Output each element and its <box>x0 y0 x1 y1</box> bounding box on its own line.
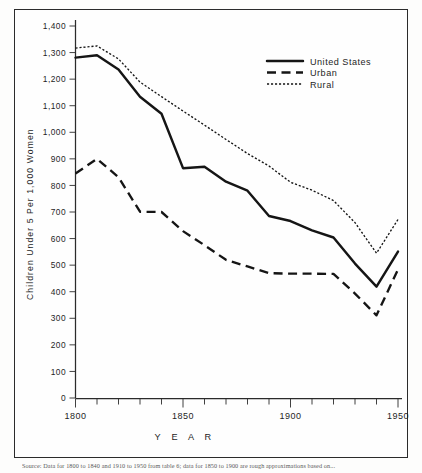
figure-caption: Source: Data for 1800 to 1840 and 1910 t… <box>22 462 414 469</box>
legend: United States Urban Rural <box>267 57 371 90</box>
legend-label-united-states: United States <box>310 57 371 67</box>
x-tick-label: 1950 <box>387 411 409 421</box>
x-axis-ticks <box>76 399 399 408</box>
legend-item-rural: Rural <box>267 80 334 90</box>
x-axis-title: Y E A R <box>155 432 216 442</box>
x-axis-tick-labels: 1800185019001950 <box>65 411 409 421</box>
x-tick-label: 1900 <box>280 411 302 421</box>
y-tick-label: 1,300 <box>43 48 66 58</box>
y-tick-label: 400 <box>51 287 66 297</box>
y-axis-tick-labels: 01002003004005006007008009001,0001,1001,… <box>43 21 66 403</box>
figure-plate: 01002003004005006007008009001,0001,1001,… <box>0 0 422 473</box>
y-tick-label: 300 <box>51 313 66 323</box>
x-tick-label: 1850 <box>172 411 194 421</box>
y-tick-label: 700 <box>51 207 66 217</box>
y-tick-label: 900 <box>51 154 66 164</box>
y-tick-label: 1,400 <box>43 21 66 31</box>
legend-item-urban: Urban <box>267 68 337 78</box>
y-tick-label: 200 <box>51 340 66 350</box>
legend-label-urban: Urban <box>310 68 337 78</box>
series-line-united-states <box>76 55 399 286</box>
x-tick-label: 1800 <box>65 411 87 421</box>
y-tick-label: 100 <box>51 367 66 377</box>
line-chart: 01002003004005006007008009001,0001,1001,… <box>0 0 422 473</box>
y-tick-label: 800 <box>51 181 66 191</box>
y-tick-label: 0 <box>61 393 66 403</box>
y-tick-label: 1,200 <box>43 74 66 84</box>
legend-item-united-states: United States <box>267 57 371 67</box>
data-series-layer <box>76 46 399 315</box>
y-tick-label: 500 <box>51 260 66 270</box>
y-axis-title: Children Under 5 Per 1,000 Women <box>25 128 35 300</box>
y-tick-label: 1,100 <box>43 101 66 111</box>
y-tick-label: 600 <box>51 234 66 244</box>
legend-label-rural: Rural <box>310 80 334 90</box>
y-axis-ticks <box>70 26 76 398</box>
y-tick-label: 1,000 <box>43 127 66 137</box>
series-line-urban <box>76 159 399 315</box>
